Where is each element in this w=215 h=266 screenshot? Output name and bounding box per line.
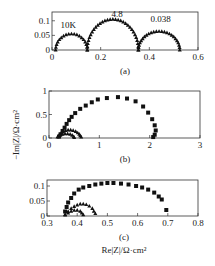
data-point [105, 96, 109, 100]
data-point [154, 128, 158, 132]
panel-a-label: (a) [120, 66, 130, 76]
x-tick-label: 0.8 [192, 218, 204, 228]
y-tick-label: 0 [41, 211, 46, 221]
data-point [65, 122, 69, 126]
data-point [66, 201, 70, 205]
impedance-figure: 00.20.40.600.050.110K4.80.038 012300.51 … [0, 0, 215, 266]
panel-a-chart: 00.20.40.600.050.110K4.80.038 [34, 9, 204, 62]
data-point [127, 183, 131, 187]
arc-annotation: 4.8 [112, 9, 124, 19]
x-tick-label: 0.2 [95, 52, 106, 62]
x-tick-label: 0.6 [192, 52, 204, 62]
x-tick-label: 0 [50, 52, 55, 62]
data-point [65, 205, 69, 209]
y-tick-label: 0.05 [34, 30, 50, 40]
data-point [146, 111, 150, 115]
x-tick-label: 0 [47, 140, 52, 150]
x-tick-label: 0.7 [162, 218, 174, 228]
x-tick-label: 0.5 [102, 218, 114, 228]
arc-annotation: 10K [61, 20, 77, 30]
data-point [93, 183, 97, 187]
y-tick-label: 0 [46, 45, 51, 55]
data-point [75, 208, 79, 212]
data-point [84, 104, 88, 108]
data-point [70, 115, 74, 119]
y-tick-label: 0.1 [39, 16, 50, 26]
data-point [146, 188, 150, 192]
data-point [119, 182, 123, 186]
data-point [105, 181, 109, 185]
arc-annotation: 0.038 [151, 14, 172, 24]
panel-b-label: (b) [120, 154, 131, 164]
y-tick-label: 0 [43, 133, 48, 143]
data-point [164, 208, 168, 212]
panel-b-chart: 012300.51 [36, 86, 203, 150]
data-point [99, 182, 103, 186]
data-point [125, 97, 129, 101]
x-tick-label: 3 [198, 140, 203, 150]
data-point [81, 202, 85, 206]
plot-frame [52, 12, 198, 50]
data-point [116, 95, 120, 99]
data-point [75, 203, 79, 207]
y-tick-label: 0.05 [29, 196, 45, 206]
data-point [78, 107, 82, 111]
y-tick-label: 0.1 [34, 181, 45, 191]
data-point [73, 111, 77, 115]
panel-c-label: (c) [119, 232, 129, 242]
data-point [152, 191, 156, 195]
y-tick-label: 1 [43, 86, 48, 96]
data-point [77, 188, 81, 192]
x-tick-label: 2 [147, 140, 152, 150]
data-point [111, 181, 115, 185]
data-point [72, 192, 76, 196]
data-point [87, 184, 91, 188]
x-tick-label: 0.6 [132, 218, 144, 228]
data-point [96, 97, 100, 101]
data-point [134, 184, 138, 188]
data-point [160, 198, 164, 202]
data-point [90, 100, 94, 104]
data-point [69, 196, 73, 200]
x-axis-title: Re|Z|/Ω·cm² [102, 245, 147, 255]
x-tick-label: 0.4 [72, 218, 84, 228]
x-tick-label: 0.4 [144, 52, 156, 62]
y-tick-label: 0.5 [36, 110, 48, 120]
data-point [141, 105, 145, 109]
panel-c-chart: 0.30.40.50.60.70.800.050.1 [29, 180, 204, 228]
y-axis-title: −Im|Z|/Ω·cm² [11, 110, 21, 160]
data-point [134, 99, 138, 103]
data-point [81, 186, 85, 190]
data-point [153, 123, 157, 127]
data-point [84, 202, 88, 206]
data-point [140, 186, 144, 190]
data-point [150, 117, 154, 121]
data-point [151, 135, 155, 139]
x-tick-label: 1 [97, 140, 102, 150]
